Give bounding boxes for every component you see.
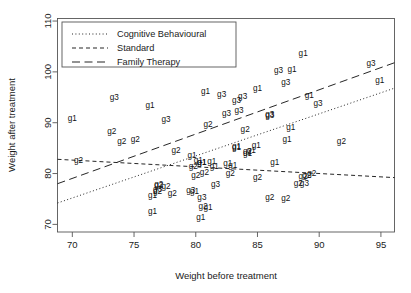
- data-point-label-g1: g1: [375, 76, 385, 85]
- legend-label: Cognitive Behavioural: [117, 29, 206, 39]
- data-point-label-g2: g2: [74, 156, 84, 165]
- data-point-label-g3: g3: [217, 90, 227, 99]
- x-tick-label: 95: [376, 239, 387, 250]
- data-point-label-g1: g1: [286, 123, 296, 132]
- data-point-label-g2: g2: [117, 137, 127, 146]
- data-point-label-g1: g1: [146, 101, 156, 110]
- data-point-label-g3: g3: [274, 66, 284, 75]
- data-point-label-g2: g2: [204, 120, 214, 129]
- data-point-label-g2: g2: [265, 193, 275, 202]
- y-axis-title: Weight after treatment: [6, 78, 17, 172]
- data-point-label-g3: g3: [153, 185, 163, 194]
- y-tick-label: 110: [42, 13, 53, 28]
- data-point-label-g2: g2: [241, 125, 251, 134]
- scatter-plot: 708090100110 707580859095 g1g1g1g1g1g1g1…: [0, 0, 411, 293]
- data-point-label-g3: g3: [300, 179, 310, 188]
- y-tick-label: 80: [42, 168, 53, 179]
- y-tick-label: 70: [42, 219, 53, 230]
- data-point-label-g3: g3: [232, 96, 242, 105]
- data-point-label-g2: g2: [191, 171, 201, 180]
- data-point-label-g1: g1: [232, 143, 242, 152]
- data-point-label-g3: g3: [366, 59, 376, 68]
- x-tick-label: 90: [314, 239, 325, 250]
- data-point-label-g1: g1: [148, 207, 158, 216]
- data-point-label-g1: g1: [201, 87, 211, 96]
- data-point-label-g3: g3: [110, 93, 120, 102]
- data-point-label-g1: g1: [283, 135, 293, 144]
- data-point-label-g1: g1: [253, 84, 263, 93]
- data-point-label-g2: g2: [199, 202, 209, 211]
- data-point-label-g2: g2: [281, 194, 291, 203]
- y-tick-label: 100: [42, 64, 53, 80]
- data-point-label-g1: g1: [187, 151, 197, 160]
- data-point-label-g3: g3: [222, 109, 232, 118]
- data-point-label-g2: g2: [107, 127, 117, 136]
- chart-figure: 708090100110 707580859095 g1g1g1g1g1g1g1…: [0, 0, 411, 293]
- data-point-label-g2: g2: [226, 169, 236, 178]
- data-point-label-g3: g3: [265, 110, 275, 119]
- data-point-label-g1: g1: [68, 114, 78, 123]
- data-point-label-g1: g1: [287, 65, 297, 74]
- data-point-label-g3: g3: [313, 99, 323, 108]
- y-tick-label: 90: [42, 117, 53, 128]
- legend-label: Standard: [117, 43, 154, 53]
- data-point-label-g3: g3: [186, 186, 196, 195]
- data-point-label-g2: g2: [171, 146, 181, 155]
- x-axis-title: Weight before treatment: [175, 270, 277, 281]
- data-point-label-g3: g3: [197, 193, 207, 202]
- x-tick-label: 70: [67, 239, 78, 250]
- x-tick-label: 80: [190, 239, 201, 250]
- data-point-label-g1: g1: [207, 157, 217, 166]
- data-point-label-g2: g2: [243, 147, 253, 156]
- legend-label: Family Therapy: [117, 57, 181, 67]
- data-point-label-g3: g3: [281, 78, 291, 87]
- chart-legend: Cognitive BehaviouralStandardFamily Ther…: [62, 22, 236, 67]
- data-point-label-g1: g1: [299, 49, 309, 58]
- x-tick-label: 75: [129, 239, 140, 250]
- x-tick-label: 85: [252, 239, 263, 250]
- data-point-label-g2: g2: [337, 137, 347, 146]
- data-point-label-g1: g1: [270, 158, 280, 167]
- data-point-label-g2: g2: [200, 168, 210, 177]
- data-point-label-g3: g3: [234, 106, 244, 115]
- data-point-label-g2: g2: [253, 173, 263, 182]
- data-point-label-g3: g3: [211, 180, 221, 189]
- data-point-label-g2: g2: [189, 162, 199, 171]
- data-point-label-g1: g1: [196, 213, 206, 222]
- data-point-label-g3: g3: [162, 115, 172, 124]
- data-point-label-g2: g2: [131, 135, 141, 144]
